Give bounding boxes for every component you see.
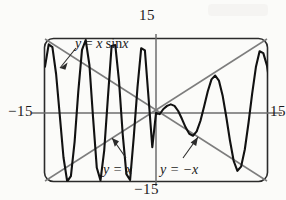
curve-eq-argument: x bbox=[122, 36, 128, 51]
upper-envelope-equation-label: y = x bbox=[103, 163, 132, 177]
axis-label-right: 15 bbox=[270, 104, 286, 119]
curve-eq-operator: = bbox=[85, 36, 93, 51]
curve-eq-lhs: y bbox=[75, 36, 81, 51]
axis-label-left: −15 bbox=[8, 104, 33, 119]
axis-label-bottom: −15 bbox=[134, 182, 159, 197]
leader-lower-envelope-label bbox=[183, 137, 198, 158]
curve-eq-function: sin bbox=[106, 36, 122, 51]
axis-label-top: 15 bbox=[139, 8, 155, 23]
graph-figure bbox=[0, 0, 286, 200]
curve-equation-label: y = x sinx bbox=[75, 37, 128, 51]
leader-curve-label bbox=[60, 48, 76, 70]
curve-eq-coefficient: x bbox=[96, 36, 102, 51]
lower-envelope-equation-label: y = −x bbox=[160, 163, 198, 177]
